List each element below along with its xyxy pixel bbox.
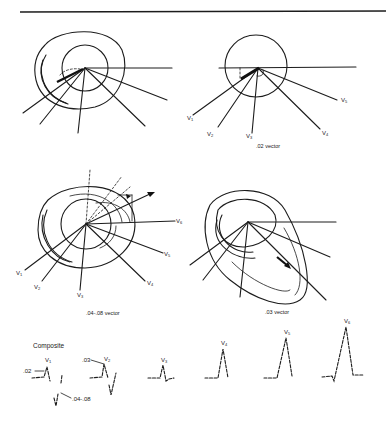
lead-label-v3-mid: V3 [77, 292, 83, 300]
composite-lead-v5: V5 [284, 329, 290, 337]
panel-middle-right-diagram [190, 191, 336, 304]
lead-label-v1-top: V1 [187, 115, 193, 123]
lead-label-v4-top: V4 [322, 130, 328, 138]
lead-label-v1-mid: V1 [16, 270, 22, 278]
composite-lead-v3: V3 [161, 357, 167, 365]
annotation-03: .03 [82, 357, 90, 363]
lead-label-v5-top: V5 [341, 97, 347, 105]
lead-label-v4-mid: V4 [147, 280, 153, 288]
panel-top-left-diagram [23, 32, 172, 133]
composite-title: Composite [33, 342, 64, 349]
lead-label-v5-mid: V5 [164, 251, 170, 259]
composite-lead-v6: V6 [344, 318, 350, 326]
caption-04-08-vector: .04-.08 vector [86, 310, 120, 316]
composite-tracings [32, 327, 364, 406]
lead-label-v2-mid: V2 [34, 284, 40, 292]
lead-label-v6-mid: V6 [176, 218, 182, 226]
annotation-02: .02 [23, 368, 31, 374]
panel-top-right-diagram [193, 35, 356, 133]
ecg-vector-figure [0, 0, 386, 423]
lead-label-v3-top: V3 [246, 133, 252, 141]
lead-label-v2-top: V2 [207, 131, 213, 139]
composite-lead-v4: V4 [221, 340, 227, 348]
panel-middle-left-diagram [25, 170, 175, 290]
caption-02-vector: .02 vector [256, 143, 280, 149]
composite-lead-v1: V1 [45, 357, 51, 365]
caption-03-vector: .03 vector [265, 309, 289, 315]
top-rule [20, 11, 386, 12]
composite-lead-v2: V2 [104, 356, 110, 364]
annotation-04-08: .04-.08 [72, 396, 91, 402]
